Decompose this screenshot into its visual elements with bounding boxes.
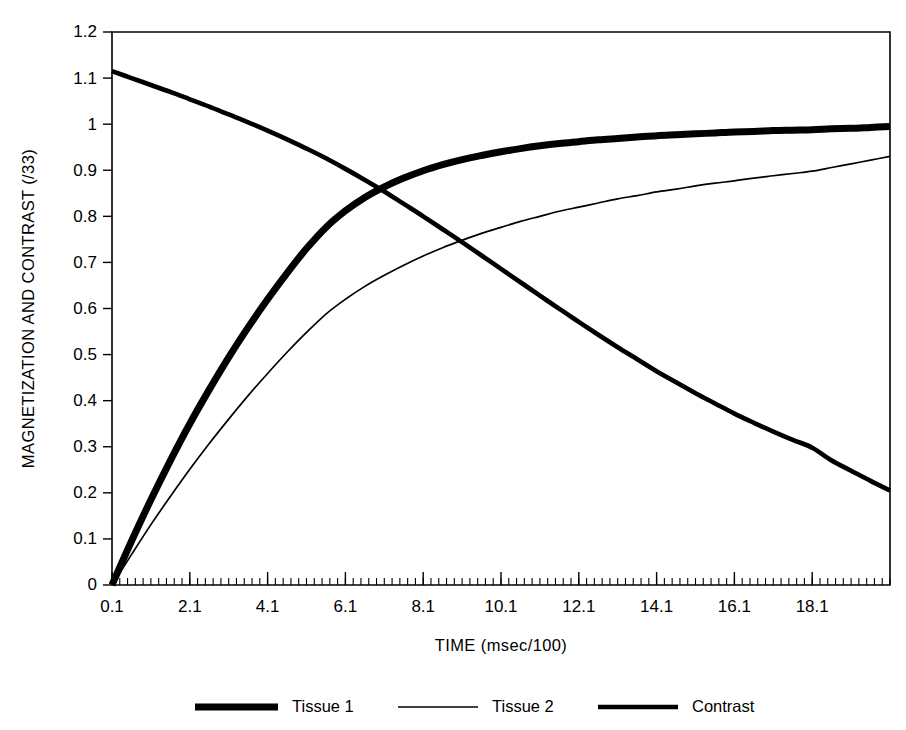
legend-label: Tissue 2 — [492, 697, 554, 715]
y-tick-label: 0.7 — [73, 253, 97, 272]
y-tick-label: 0.1 — [73, 529, 97, 548]
y-axis-title: MAGNETIZATION AND CONTRAST (/33) — [19, 149, 37, 468]
y-tick-label: 0.6 — [73, 299, 97, 318]
y-tick-label: 0.4 — [73, 391, 97, 410]
x-tick-label: 0.1 — [100, 597, 124, 616]
y-tick-label: 0.9 — [73, 161, 97, 180]
series-line-tissue-1 — [112, 126, 890, 585]
y-tick-label: 0.8 — [73, 207, 97, 226]
x-tick-label: 4.1 — [256, 597, 280, 616]
chart-figure: 00.10.20.30.40.50.60.70.80.911.11.20.12.… — [0, 0, 906, 730]
y-tick-label: 1.1 — [73, 69, 97, 88]
chart-canvas: 00.10.20.30.40.50.60.70.80.911.11.20.12.… — [0, 0, 906, 730]
legend-label: Contrast — [692, 697, 755, 715]
series-line-tissue-2 — [112, 156, 890, 585]
x-tick-label: 12.1 — [562, 597, 595, 616]
x-tick-label: 10.1 — [484, 597, 517, 616]
legend-label: Tissue 1 — [292, 697, 354, 715]
x-tick-label: 8.1 — [411, 597, 435, 616]
x-tick-label: 18.1 — [796, 597, 829, 616]
y-tick-label: 0.2 — [73, 483, 97, 502]
legend-item-tissue-2: Tissue 2 — [398, 697, 554, 715]
x-tick-label: 14.1 — [640, 597, 673, 616]
x-tick-label: 2.1 — [178, 597, 202, 616]
y-tick-label: 0.3 — [73, 437, 97, 456]
y-tick-label: 0 — [88, 575, 97, 594]
y-tick-label: 0.5 — [73, 345, 97, 364]
y-tick-label: 1.2 — [73, 22, 97, 41]
x-tick-label: 16.1 — [718, 597, 751, 616]
x-tick-label: 6.1 — [334, 597, 358, 616]
legend-item-tissue-1: Tissue 1 — [195, 697, 354, 715]
x-axis-title: TIME (msec/100) — [435, 636, 568, 654]
y-tick-label: 1 — [88, 115, 97, 134]
legend-item-contrast: Contrast — [598, 697, 755, 715]
